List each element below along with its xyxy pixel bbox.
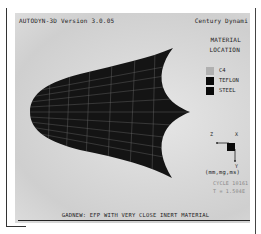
legend-label-teflon: TEFLON xyxy=(219,77,239,84)
swatch-c4 xyxy=(206,67,214,75)
legend-item-teflon: TEFLON xyxy=(206,76,239,85)
axis-z-label: Z xyxy=(210,131,213,138)
time-status: T = 1.504E xyxy=(213,188,245,195)
legend-heading-material: MATERIAL xyxy=(211,36,242,43)
legend-label-steel: STEEL xyxy=(219,87,236,94)
panel-bottom-rule xyxy=(18,220,250,221)
legend-item-c4: C4 xyxy=(206,66,239,75)
swatch-steel xyxy=(206,87,214,95)
units-label: (mm,mg,ms) xyxy=(205,169,240,176)
legend-label-c4: C4 xyxy=(219,67,226,74)
swatch-teflon xyxy=(206,77,214,85)
vendor-label: Century Dynami xyxy=(195,17,248,24)
legend-item-steel: STEEL xyxy=(206,86,239,95)
material-legend: C4 TEFLON STEEL xyxy=(206,66,239,96)
app-title: AUTODYN-3D Version 3.0.05 xyxy=(19,17,114,24)
plot-caption: GADNEW: EFP WITH VERY CLOSE INERT MATERI… xyxy=(0,212,261,219)
legend-heading-location: LOCATION xyxy=(210,46,241,53)
cycle-status: CYCLE 10161 xyxy=(213,180,248,187)
axis-x-label: X xyxy=(235,131,238,138)
